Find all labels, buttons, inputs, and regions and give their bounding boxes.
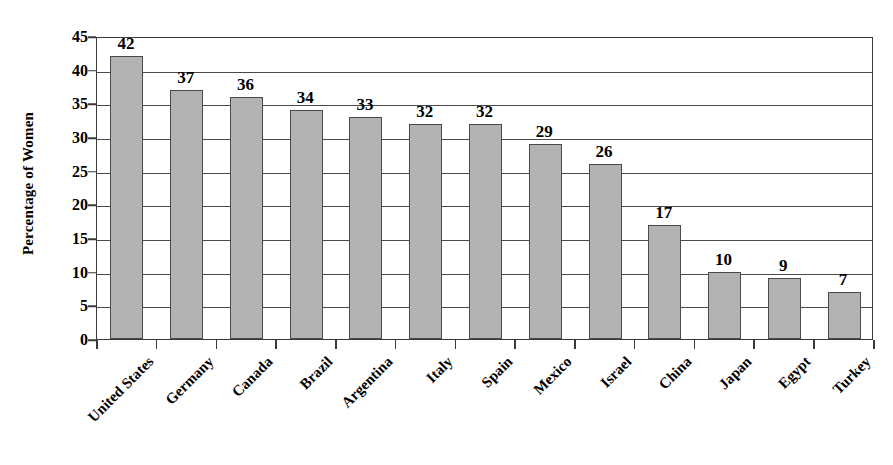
y-tick-mark-0 <box>88 339 96 341</box>
x-tick-mark <box>96 340 98 349</box>
x-tick-mark <box>574 340 576 349</box>
bar-value-label: 33 <box>335 96 395 113</box>
bar[interactable] <box>409 124 442 339</box>
y-tick-label-25: 25 <box>18 163 88 181</box>
bar[interactable] <box>230 97 263 339</box>
y-tick-mark-30 <box>88 137 96 139</box>
bar-value-label: 37 <box>156 69 216 86</box>
bar-value-label: 17 <box>634 204 694 221</box>
x-axis-label-text: Israel <box>598 354 635 391</box>
bar-value-label: 10 <box>694 251 754 268</box>
bar[interactable] <box>529 144 562 339</box>
y-tick-label-45: 45 <box>18 28 88 46</box>
x-tick-mark <box>873 340 875 349</box>
y-axis-ticks: 051015202530354045 <box>0 0 96 465</box>
bar[interactable] <box>110 56 143 339</box>
x-tick-mark <box>694 340 696 349</box>
y-tick-label-0: 0 <box>18 331 88 349</box>
x-tick-mark <box>455 340 457 349</box>
x-axis-label-text: United States <box>85 354 156 425</box>
bar-chart: Percentage of Women 051015202530354045 4… <box>0 0 893 465</box>
y-tick-mark-35 <box>88 104 96 106</box>
x-tick-mark <box>514 340 516 349</box>
x-axis-label-text: Turkey <box>830 354 873 397</box>
x-axis-label-text: Brazil <box>297 354 335 392</box>
y-tick-label-30: 30 <box>18 129 88 147</box>
bar[interactable] <box>290 110 323 339</box>
y-tick-label-10: 10 <box>18 264 88 282</box>
bar[interactable] <box>170 90 203 339</box>
bar[interactable] <box>768 278 801 339</box>
x-axis-label-text: Japan <box>716 354 754 392</box>
bar-value-label: 34 <box>275 89 335 106</box>
bar-value-label: 32 <box>395 103 455 120</box>
y-tick-mark-10 <box>88 272 96 274</box>
x-tick-mark <box>753 340 755 349</box>
x-axis-label-text: China <box>656 354 694 392</box>
x-axis-label-text: Mexico <box>531 354 575 398</box>
x-axis-label-text: Argentina <box>339 354 396 411</box>
x-tick-mark <box>216 340 218 349</box>
y-tick-label-40: 40 <box>18 62 88 80</box>
x-tick-mark <box>335 340 337 349</box>
y-tick-mark-25 <box>88 171 96 173</box>
bar[interactable] <box>648 225 681 339</box>
bar-value-label: 42 <box>96 35 156 52</box>
x-tick-mark <box>813 340 815 349</box>
bar-value-label: 9 <box>753 257 813 274</box>
bar[interactable] <box>708 272 741 339</box>
y-tick-label-15: 15 <box>18 230 88 248</box>
bar-value-label: 7 <box>813 271 873 288</box>
x-tick-mark <box>156 340 158 349</box>
bar-value-label: 36 <box>215 76 275 93</box>
x-tick-mark <box>634 340 636 349</box>
x-axis-label-text: Spain <box>479 354 516 391</box>
y-tick-label-20: 20 <box>18 196 88 214</box>
x-tick-mark <box>395 340 397 349</box>
x-tick-mark <box>275 340 277 349</box>
bar-value-label: 32 <box>455 103 515 120</box>
bar[interactable] <box>469 124 502 339</box>
x-axis-label-text: Germany <box>163 354 217 408</box>
y-tick-mark-40 <box>88 70 96 72</box>
bar-value-label: 26 <box>574 143 634 160</box>
y-tick-mark-5 <box>88 306 96 308</box>
bar[interactable] <box>828 292 861 339</box>
bar[interactable] <box>349 117 382 339</box>
y-tick-label-35: 35 <box>18 95 88 113</box>
y-tick-label-5: 5 <box>18 297 88 315</box>
x-axis-label-text: Canada <box>230 354 276 400</box>
bar[interactable] <box>589 164 622 339</box>
y-tick-mark-45 <box>88 36 96 38</box>
bar-value-label: 29 <box>514 123 574 140</box>
y-tick-mark-15 <box>88 238 96 240</box>
x-axis-label-text: Italy <box>424 354 456 386</box>
y-tick-mark-20 <box>88 205 96 207</box>
x-axis-label-text: Egypt <box>776 354 814 392</box>
